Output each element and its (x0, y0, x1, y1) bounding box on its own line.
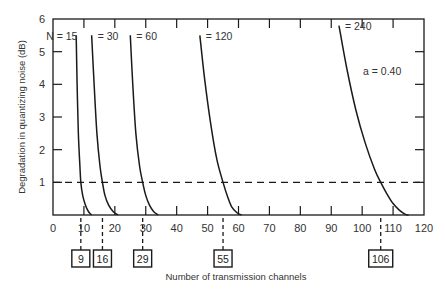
boxed-value-9: 9 (72, 250, 90, 267)
curve-n60 (130, 35, 158, 215)
x-tick-label: 90 (325, 222, 337, 234)
x-tick-label: 110 (384, 222, 402, 234)
plot-frame (53, 19, 424, 215)
curve-label: N = 15 (46, 30, 77, 42)
y-tick-label: 1 (39, 176, 45, 188)
x-axis-title: Number of transmission channels (166, 271, 307, 282)
svg-text:55: 55 (217, 253, 229, 265)
x-tick-label: 60 (232, 222, 244, 234)
x-tick-label: 80 (294, 222, 306, 234)
y-tick-label: 5 (39, 46, 45, 58)
boxed-value-29: 29 (134, 250, 152, 267)
curve-labels: N = 15= 30= 60= 120= 240 (46, 20, 372, 43)
y-tick-label: 4 (39, 78, 45, 90)
y-tick-label: 6 (39, 13, 45, 25)
y-axis-title: Degradation in quantizing noise (dB) (16, 40, 27, 194)
annotation-a-value: a = 0.40 (363, 65, 401, 77)
x-tick-label: 20 (109, 222, 121, 234)
curve-n30 (92, 35, 118, 215)
y-tick-label: 2 (39, 144, 45, 156)
x-tick-label: 40 (171, 222, 183, 234)
curve-label: = 30 (98, 30, 119, 42)
x-tick-label: 100 (353, 222, 371, 234)
degradation-chart: 123456 0102030405060708090100110120 N = … (0, 0, 445, 297)
x-tick-label: 30 (140, 222, 152, 234)
x-tick-label: 10 (78, 222, 90, 234)
curve-label: = 60 (136, 30, 157, 42)
curve-n240 (339, 26, 409, 215)
x-tick-label: 50 (201, 222, 213, 234)
svg-text:106: 106 (372, 253, 390, 265)
svg-text:9: 9 (78, 253, 84, 265)
boxed-value-16: 16 (93, 250, 111, 267)
curve-label: = 120 (206, 30, 233, 42)
curve-label: = 240 (345, 20, 372, 32)
curve-n120 (200, 35, 242, 215)
x-tick-label: 0 (50, 222, 56, 234)
curves (76, 26, 408, 215)
boxed-value-55: 55 (214, 250, 232, 267)
y-tick-label: 3 (39, 111, 45, 123)
x-tick-label: 120 (415, 222, 433, 234)
boxed-value-106: 106 (369, 250, 393, 267)
plot-border (53, 19, 424, 215)
svg-text:29: 29 (137, 253, 149, 265)
svg-text:16: 16 (97, 253, 109, 265)
curve-n15 (76, 35, 91, 215)
x-tick-label: 70 (263, 222, 275, 234)
